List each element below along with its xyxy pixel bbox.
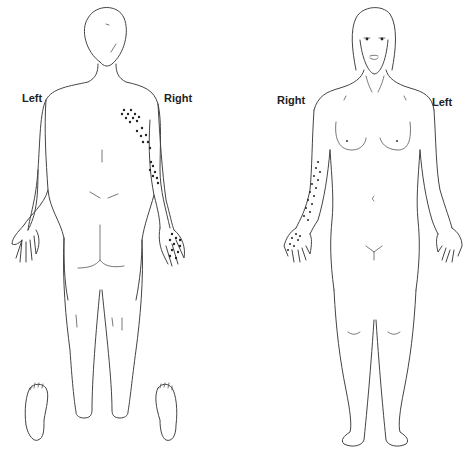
anterior-symptom-dots: [287, 161, 321, 251]
body-outlines: [0, 0, 474, 459]
anterior-body: [284, 8, 462, 446]
posterior-symptom-dots: [121, 109, 181, 259]
left-sole: [25, 383, 47, 440]
right-sole: [156, 383, 177, 440]
body-chart-figure: Left Right Right Left: [0, 0, 474, 459]
posterior-body: [12, 8, 185, 419]
